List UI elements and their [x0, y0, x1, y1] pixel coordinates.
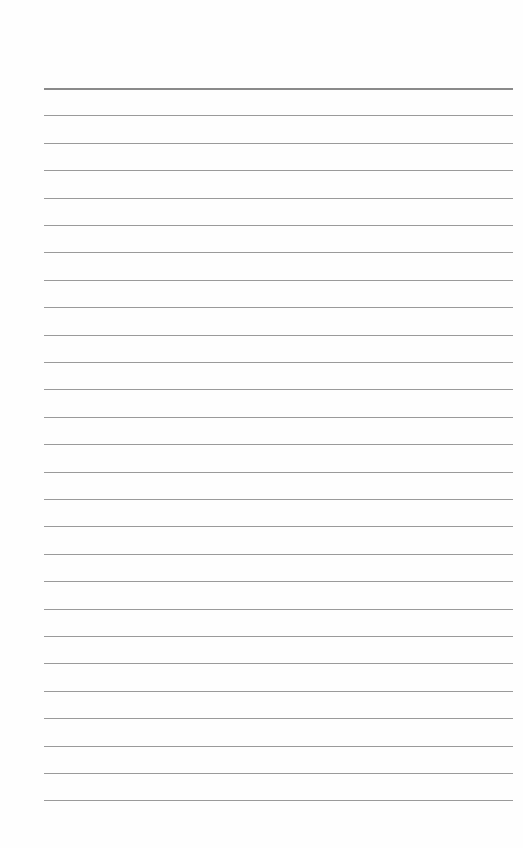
lined-paper-page — [0, 0, 523, 848]
rule-line — [44, 663, 513, 664]
rule-line — [44, 198, 513, 199]
rule-line — [44, 143, 513, 144]
rule-line — [44, 225, 513, 226]
rule-line — [44, 280, 513, 281]
rule-line — [44, 581, 513, 582]
rule-line — [44, 773, 513, 774]
rule-line — [44, 472, 513, 473]
rule-line — [44, 691, 513, 692]
rule-line — [44, 554, 513, 555]
rule-line — [44, 170, 513, 171]
rule-line — [44, 335, 513, 336]
rule-line — [44, 718, 513, 719]
rule-line — [44, 389, 513, 390]
rule-line — [44, 609, 513, 610]
rule-line — [44, 417, 513, 418]
rule-line — [44, 526, 513, 527]
rule-line — [44, 115, 513, 116]
rule-line — [44, 746, 513, 747]
rule-line — [44, 636, 513, 637]
rule-line — [44, 444, 513, 445]
header-rule-line — [44, 88, 513, 90]
rule-line — [44, 307, 513, 308]
rule-line — [44, 362, 513, 363]
rule-line — [44, 499, 513, 500]
rule-line — [44, 800, 513, 801]
rule-line — [44, 252, 513, 253]
